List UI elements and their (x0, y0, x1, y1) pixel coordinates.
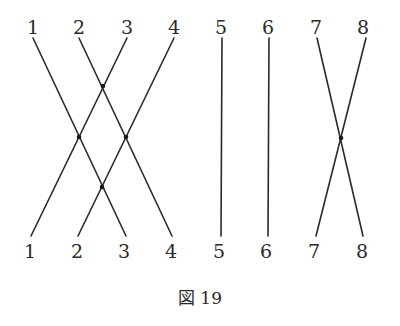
top-label-1: 1 (27, 16, 39, 38)
top-label-8: 8 (357, 16, 369, 38)
crossing-nodes (77, 84, 344, 190)
top-label-4: 4 (168, 16, 180, 38)
bottom-labels: 1 2 3 4 5 6 7 8 (24, 240, 368, 262)
top-label-3: 3 (121, 16, 133, 38)
bottom-label-3: 3 (118, 240, 130, 262)
strand-5-to-5 (221, 38, 222, 236)
crossing-node (339, 136, 344, 141)
bottom-label-4: 4 (165, 240, 177, 262)
bottom-label-8: 8 (356, 240, 368, 262)
bottom-label-6: 6 (260, 240, 272, 262)
crossing-node (124, 135, 129, 140)
top-label-6: 6 (262, 16, 274, 38)
crossing-node (77, 135, 82, 140)
bottom-label-7: 7 (308, 240, 320, 262)
top-label-5: 5 (215, 16, 227, 38)
strand-6-to-6 (268, 38, 269, 236)
bottom-label-1: 1 (24, 240, 36, 262)
crossing-node (101, 84, 106, 89)
braid-permutation-diagram: 1 2 3 4 5 6 7 8 1 2 3 4 5 6 7 8 図 19 (0, 0, 400, 326)
bottom-label-5: 5 (213, 240, 225, 262)
top-label-7: 7 (310, 16, 322, 38)
top-labels: 1 2 3 4 5 6 7 8 (27, 16, 369, 38)
bottom-label-2: 2 (71, 240, 83, 262)
figure-caption: 図 19 (178, 288, 222, 308)
crossing-node (100, 185, 105, 190)
top-label-2: 2 (73, 16, 85, 38)
